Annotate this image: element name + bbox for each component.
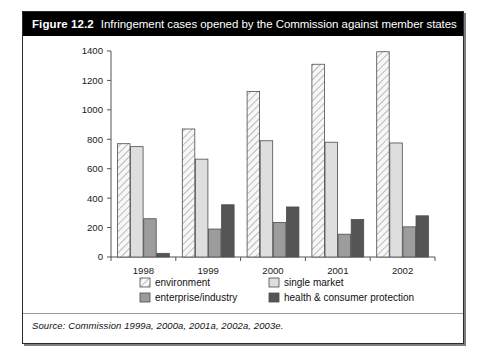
bar	[222, 205, 235, 257]
chart-area: 0200400600800100012001400 19981999200020…	[23, 36, 463, 313]
legend-label: enterprise/industry	[155, 292, 237, 303]
y-tick-label: 1400	[82, 45, 103, 56]
bar	[182, 129, 195, 257]
source-divider	[23, 313, 463, 314]
hatched-swatch	[140, 278, 150, 287]
source-caption: Source: Commission 1999a, 2000a, 2001a, …	[32, 320, 283, 331]
legend-label: health & consumer protection	[284, 292, 414, 303]
bar	[144, 219, 157, 257]
x-tick-label: 1998	[133, 265, 154, 276]
chart-legend: environmentsingle marketenterprise/indus…	[140, 277, 414, 303]
bar	[131, 147, 144, 257]
bar	[403, 227, 416, 257]
bar	[260, 141, 273, 257]
dark-gray-swatch	[269, 293, 279, 302]
bar	[416, 216, 429, 257]
light-gray-swatch	[269, 278, 279, 287]
bar	[377, 52, 390, 257]
bar-series-group	[118, 52, 429, 257]
bar	[312, 64, 325, 257]
y-tick-label: 1200	[82, 75, 103, 86]
bar	[247, 91, 260, 257]
mid-gray-swatch	[140, 293, 150, 302]
figure-title-bar: Figure 12.2 Infringement cases opened by…	[23, 12, 463, 36]
bar	[351, 219, 364, 257]
y-tick-label: 400	[87, 193, 103, 204]
bar	[118, 144, 131, 257]
x-tick-label: 2000	[262, 265, 283, 276]
x-tick-label: 2001	[327, 265, 348, 276]
bar	[209, 229, 222, 257]
figure-container: Figure 12.2 Infringement cases opened by…	[22, 11, 464, 344]
x-tick-label: 1999	[198, 265, 219, 276]
bar-chart: 0200400600800100012001400 19981999200020…	[23, 36, 465, 313]
y-tick-label: 1000	[82, 104, 103, 115]
y-tick-label: 0	[98, 251, 103, 262]
y-axis: 0200400600800100012001400	[82, 45, 111, 262]
figure-number: Figure 12.2	[32, 18, 94, 30]
bar	[338, 234, 351, 257]
bar	[390, 143, 403, 257]
bar	[157, 253, 170, 257]
bar	[195, 159, 208, 257]
y-tick-label: 200	[87, 222, 103, 233]
page-title: Infringement cases opened by the Commiss…	[101, 18, 457, 30]
x-axis: 19981999200020012002	[111, 257, 435, 276]
y-tick-label: 600	[87, 163, 103, 174]
y-tick-label: 800	[87, 134, 103, 145]
bar	[273, 222, 286, 257]
bar	[286, 207, 299, 257]
bar	[325, 142, 338, 257]
legend-label: single market	[284, 277, 344, 288]
x-tick-label: 2002	[392, 265, 413, 276]
legend-label: environment	[155, 277, 210, 288]
